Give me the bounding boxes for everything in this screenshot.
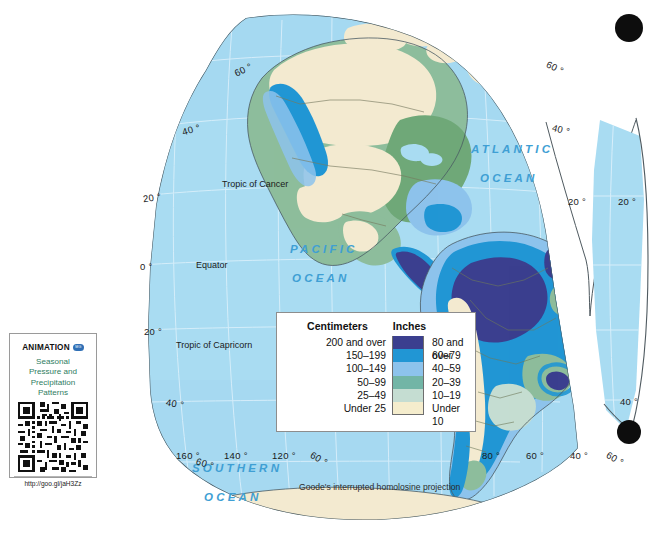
legend-inches-value: 20–39 (424, 376, 466, 389)
legend-inches-value: 80 and over (424, 336, 466, 349)
animation-subtitle-line-4: Patterns (10, 388, 96, 398)
legend-row: 100–149 40–59 (286, 362, 466, 375)
mastering-geography-badge: MG (73, 344, 84, 351)
legend-cm-value: 25–49 (286, 389, 392, 402)
world-map-graphic (0, 0, 659, 538)
map-page: ATLANTIC OCEAN PACIFIC OCEAN SOUTHERN OC… (0, 0, 659, 538)
legend-cm-value: 100–149 (286, 362, 392, 375)
top-right-dot (615, 14, 643, 42)
animation-subtitle-line-2: Pressure and (10, 367, 96, 377)
legend-heading-centimeters: Centimeters (286, 320, 389, 332)
bottom-right-dot (617, 420, 641, 444)
legend-inches-value: 40–59 (424, 362, 466, 375)
legend-cm-value: Under 25 (286, 402, 392, 415)
legend-color-swatch (392, 349, 424, 362)
precipitation-legend: Centimeters Inches 200 and over 80 and o… (276, 312, 476, 432)
legend-headings: Centimeters Inches (286, 320, 466, 332)
legend-color-swatch (392, 376, 424, 389)
legend-cm-value: 200 and over (286, 336, 392, 349)
animation-subtitle-line-3: Precipitation (10, 378, 96, 388)
legend-color-swatch (392, 336, 424, 349)
legend-row: 150–199 60–79 (286, 349, 466, 362)
legend-color-swatch (392, 389, 424, 402)
qr-code-icon[interactable] (18, 402, 88, 472)
legend-inches-value: Under 10 (424, 402, 466, 415)
legend-heading-inches: Inches (389, 320, 466, 332)
legend-cm-value: 50–99 (286, 376, 392, 389)
legend-color-swatch (392, 362, 424, 375)
legend-inches-value: 10–19 (424, 389, 466, 402)
legend-row: 50–99 20–39 (286, 376, 466, 389)
animation-title-row: ANIMATIONMG (10, 338, 96, 356)
legend-row: 200 and over 80 and over (286, 336, 466, 349)
animation-callout-box[interactable]: ANIMATIONMG Seasonal Pressure and Precip… (9, 333, 97, 478)
animation-subtitle: Seasonal Pressure and Precipitation Patt… (10, 357, 96, 399)
legend-row: Under 25 Under 10 (286, 402, 466, 415)
legend-inches-value: 60–79 (424, 349, 466, 362)
legend-color-swatch (392, 402, 424, 415)
animation-url[interactable]: http://goo.gl/jaH3Zz (14, 476, 92, 487)
legend-row: 25–49 10–19 (286, 389, 466, 402)
animation-subtitle-line-1: Seasonal (10, 357, 96, 367)
legend-cm-value: 150–199 (286, 349, 392, 362)
qr-code[interactable] (18, 402, 88, 472)
western-lobe (130, 0, 600, 538)
animation-title: ANIMATION (22, 343, 70, 352)
